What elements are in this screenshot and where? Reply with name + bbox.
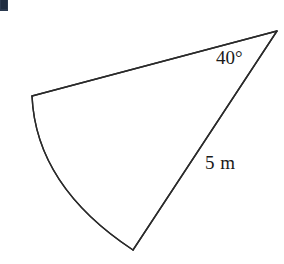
arc-edge: [32, 96, 133, 250]
top-left-corner-fragment-inner: [1, 0, 7, 9]
side-length-label: 5 m: [205, 153, 236, 172]
figure-canvas: 40° 5 m: [0, 0, 284, 264]
angle-label: 40°: [216, 48, 243, 67]
top-left-corner-fragment: [0, 0, 8, 11]
geometry-figure-svg: [0, 0, 284, 264]
